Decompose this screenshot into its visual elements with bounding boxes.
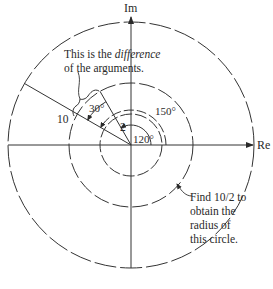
modulus-label-10: 10 <box>57 113 69 125</box>
real-axis-label: Re <box>257 138 270 152</box>
imaginary-axis-label: Im <box>124 1 138 15</box>
radius-note-line-2: obtain the <box>190 205 236 217</box>
radius-note-line-4: this circle. <box>190 233 238 245</box>
difference-note-emphasis: difference <box>115 48 161 61</box>
angle-label-120: 120° <box>133 133 154 145</box>
difference-note-prefix: This is the <box>64 48 115 60</box>
angle-label-30: 30° <box>89 102 104 114</box>
difference-note-line-1: This is the difference <box>64 48 160 61</box>
radius-note-line-1: Find 10/2 to <box>190 191 246 203</box>
difference-note-line-2: of the arguments. <box>64 62 144 75</box>
angle-label-150: 150° <box>155 105 176 117</box>
vector-modulus-2 <box>100 91 131 145</box>
difference-leader <box>78 72 80 99</box>
modulus-label-2: 2 <box>120 121 126 133</box>
radius-note-line-3: radius of <box>190 219 231 231</box>
argand-diagram: Im Re 10 2 30° 150° 120° This is the dif… <box>0 0 273 289</box>
